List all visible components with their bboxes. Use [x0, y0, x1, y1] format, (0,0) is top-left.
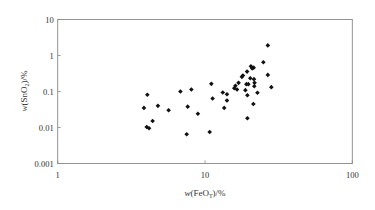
x-tick-label: 1: [56, 170, 60, 180]
data-point-diamond: [184, 132, 189, 137]
y-axis-label: w(SnO2)/%: [19, 70, 30, 112]
y-axis-ticks: 1010.10.010.001: [35, 15, 61, 169]
data-point-diamond: [189, 87, 194, 92]
data-point-diamond: [150, 119, 155, 124]
data-point-diamond: [210, 96, 215, 101]
data-point-diamond: [166, 108, 171, 113]
x-axis-label: w(FeOT)/%: [184, 188, 226, 199]
data-point-diamond: [245, 116, 250, 121]
data-point-diamond: [266, 43, 271, 48]
y-tick-label: 10: [45, 15, 54, 25]
data-point-diamond: [142, 106, 147, 111]
plot-border: [58, 20, 353, 164]
data-point-diamond: [245, 69, 250, 74]
data-point-diamond: [248, 76, 253, 81]
data-point-diamond: [222, 106, 227, 111]
data-point-diamond: [209, 82, 214, 87]
data-point-diamond: [185, 104, 190, 109]
data-point-diamond: [251, 102, 256, 107]
data-point-diamond: [220, 90, 225, 95]
data-point-diamond: [225, 92, 230, 97]
data-point-diamond: [156, 104, 161, 109]
data-point-diamond: [178, 89, 183, 94]
scatter-chart: 1010.10.010.001 110100 w(FeOT)/% w(SnO2)…: [0, 0, 375, 210]
data-point-diamond: [245, 93, 250, 98]
data-point-diamond: [196, 112, 201, 117]
data-point-diamond: [207, 130, 212, 135]
data-point-diamond: [252, 77, 257, 82]
data-point-diamond: [145, 92, 150, 97]
data-point-diamond: [266, 73, 271, 78]
data-point-diamond: [243, 88, 248, 93]
data-point-diamond: [225, 98, 230, 103]
x-tick-label: 100: [346, 170, 359, 180]
y-tick-label: 1: [49, 51, 53, 61]
data-points: [142, 43, 274, 136]
y-tick-label: 0.001: [35, 159, 54, 169]
data-point-diamond: [236, 81, 241, 86]
data-point-diamond: [269, 85, 274, 90]
data-point-diamond: [255, 91, 260, 96]
y-tick-label: 0.01: [39, 123, 54, 133]
data-point-diamond: [261, 60, 266, 65]
y-tick-label: 0.1: [43, 87, 54, 97]
x-tick-label: 10: [201, 170, 210, 180]
plot-frame: [58, 20, 353, 164]
data-point-diamond: [252, 81, 257, 86]
